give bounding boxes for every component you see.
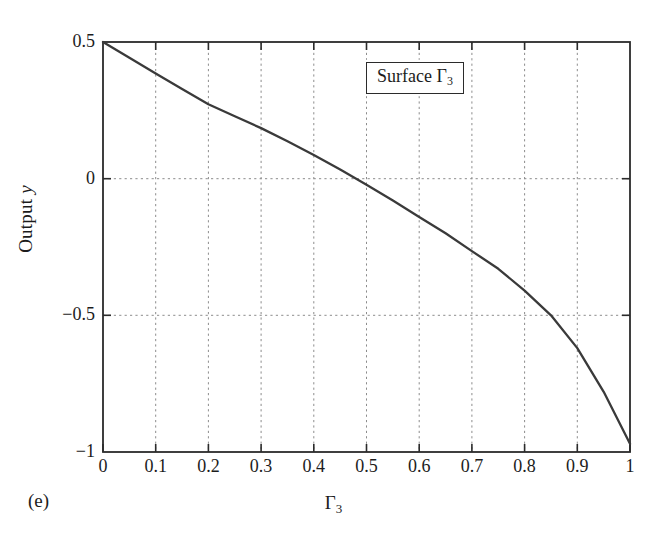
x-tick-label-9: 0.9 [566,456,589,477]
y-tick-text-3: −1 [76,441,95,462]
x-axis-label: Γ3 [0,492,667,517]
x-tick-label-2: 0.2 [197,456,220,477]
y-axis-label: Output y [15,159,37,279]
y-tick-text-1: 0 [86,168,95,189]
y-tick-text-2: −0.5 [62,304,95,325]
x-axis-label-text: Γ [325,492,336,513]
x-tick-label-6: 0.6 [408,456,431,477]
legend-box: Surface Γ3 [366,62,464,94]
panel-label: (e) [28,490,49,512]
legend-label-text: Surface Γ [377,66,447,86]
figure-panel-e: 0 0.1 0.2 0.3 0.4 0.5 0.6 0.7 0.8 0.9 1 … [0,0,667,542]
x-tick-label-0: 0 [99,456,108,477]
x-tick-label-8: 0.8 [513,456,536,477]
y-axis-label-text: Output [15,194,36,253]
y-tick-text-0: 0.5 [73,31,96,52]
x-axis-label-subscript: 3 [336,501,343,516]
legend-label-subscript: 3 [447,74,453,88]
x-tick-label-5: 0.5 [355,456,378,477]
x-tick-label-1: 0.1 [144,456,167,477]
x-tick-label-4: 0.4 [303,456,326,477]
x-tick-label-3: 0.3 [250,456,273,477]
x-tick-label-7: 0.7 [461,456,484,477]
y-axis-label-variable: y [15,185,36,194]
x-tick-label-10: 1 [626,456,635,477]
